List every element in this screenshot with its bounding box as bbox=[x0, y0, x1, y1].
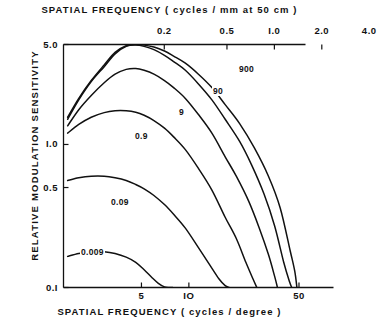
xtick-bottom-label-1: IO bbox=[171, 290, 207, 301]
xtick-top-label-2: I.0 bbox=[256, 25, 292, 36]
series-line-0.09 bbox=[68, 176, 229, 287]
xtick-top-label-1: 0.5 bbox=[209, 25, 245, 36]
ytick-label-3: 0.I bbox=[20, 282, 58, 293]
curve-label-0.009: 0.009 bbox=[80, 247, 105, 257]
xtick-top-label-0: 0.2 bbox=[146, 25, 182, 36]
series-line-0.9 bbox=[68, 111, 257, 288]
xtick-bottom-label-0: 5 bbox=[123, 290, 159, 301]
curve-label-0.09: 0.09 bbox=[110, 197, 130, 207]
ytick-label-1: I.0 bbox=[20, 138, 58, 149]
curve-label-0.9: 0.9 bbox=[134, 131, 149, 141]
curve-label-9: 9 bbox=[178, 107, 185, 117]
ytick-label-2: 0.5 bbox=[20, 182, 58, 193]
curve-label-900: 900 bbox=[238, 64, 255, 74]
xtick-top-label-3: 2.0 bbox=[304, 25, 340, 36]
xtick-top-label-4: 4.0 bbox=[351, 25, 381, 36]
xtick-bottom-label-2: 50 bbox=[281, 290, 317, 301]
curve-label-90: 90 bbox=[212, 86, 224, 96]
ytick-label-0: 5.0 bbox=[20, 39, 58, 50]
